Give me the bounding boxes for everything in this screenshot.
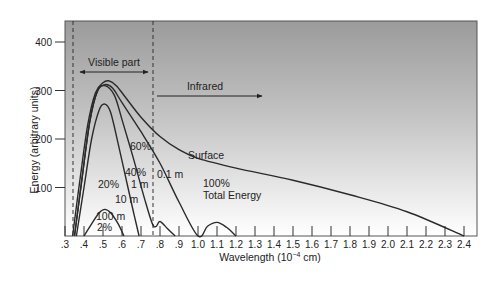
pct20-label: 20% — [98, 178, 119, 190]
visible-part-label: Visible part — [88, 56, 140, 68]
x-tick-label: 2.0 — [381, 239, 395, 250]
x-tick-label: 2.1 — [400, 239, 414, 250]
pct2-label: 2% — [97, 221, 112, 233]
x-tick-label: .4 — [80, 239, 89, 250]
x-tick-label: .3 — [61, 239, 70, 250]
pct60-label: 60% — [130, 140, 151, 152]
x-tick-label: 1.5 — [286, 239, 300, 250]
x-tick-label: .9 — [175, 239, 184, 250]
total-energy-label: Total Energy — [203, 189, 262, 201]
x-tick-label: 1.4 — [267, 239, 281, 250]
x-tick-label: 1.0 — [191, 239, 205, 250]
energy-spectrum-chart: 100200300400 .3.4.5.6.7.8.91.01.11.21.31… — [0, 0, 498, 281]
x-tick-label: 1.6 — [305, 239, 319, 250]
pct40-label: 40% — [125, 166, 146, 178]
x-axis-title: Wavelength (10−4 cm) — [219, 251, 321, 263]
x-tick-label: 2.2 — [419, 239, 433, 250]
m10-label: 10 m — [115, 193, 139, 205]
x-tick-label: 1.7 — [324, 239, 338, 250]
surface-label: Surface — [188, 149, 224, 161]
x-tick-label: .7 — [137, 239, 146, 250]
infrared-label: Infrared — [187, 80, 223, 92]
x-tick-label: .6 — [118, 239, 127, 250]
y-tick-label: 400 — [35, 37, 52, 48]
x-tick-label: 2.4 — [457, 239, 471, 250]
x-tick-label: 1.9 — [362, 239, 376, 250]
x-tick-label: .5 — [99, 239, 108, 250]
m01-label: 0.1 m — [157, 168, 184, 180]
x-tick-label: 1.1 — [210, 239, 224, 250]
x-tick-label: .8 — [156, 239, 165, 250]
x-tick-label: 1.3 — [248, 239, 262, 250]
x-tick-label: 1.2 — [229, 239, 243, 250]
total-pct-label: 100% — [203, 177, 230, 189]
x-tick-label: 1.8 — [343, 239, 357, 250]
x-tick-label: 2.3 — [438, 239, 452, 250]
y-axis-title: Energy (arbitrary units) — [28, 87, 40, 194]
m1-label: 1 m — [131, 178, 149, 190]
